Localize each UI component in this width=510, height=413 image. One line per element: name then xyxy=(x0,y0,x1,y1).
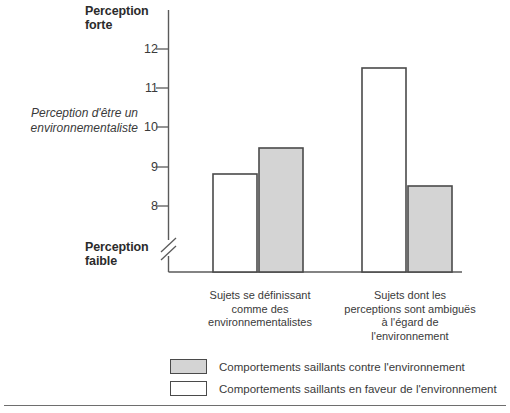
x-category-label-0-line2: comme des xyxy=(232,303,289,315)
bottom-divider xyxy=(4,405,506,406)
x-category-label-0: Sujets se définissant comme des environn… xyxy=(176,289,344,330)
bar-group1-against xyxy=(259,148,303,272)
x-category-label-0-line3: environnementalistes xyxy=(208,316,312,328)
legend-swatch-white xyxy=(170,381,207,396)
x-category-label-1: Sujets dont les perceptions sont ambiguë… xyxy=(330,289,490,343)
legend-swatch-gray xyxy=(170,359,207,374)
bar-group2-against xyxy=(408,186,452,272)
legend-item-favour: Comportements saillants en faveur de l'e… xyxy=(170,379,497,398)
legend-label-favour: Comportements saillants en faveur de l'e… xyxy=(219,383,497,395)
legend-item-against: Comportements saillants contre l'environ… xyxy=(170,357,497,376)
chart-legend: Comportements saillants contre l'environ… xyxy=(170,357,497,401)
x-category-label-1-line1: Sujets dont les xyxy=(374,289,446,301)
chart-figure: Perception forte Perception faible Perce… xyxy=(0,0,510,413)
bar-group2-favour xyxy=(362,68,406,272)
x-category-label-0-line1: Sujets se définissant xyxy=(210,289,311,301)
x-category-label-1-line3: à l'égard de xyxy=(381,316,438,328)
legend-label-against: Comportements saillants contre l'environ… xyxy=(219,361,465,373)
x-category-label-1-line2: perceptions sont ambiguës xyxy=(344,303,475,315)
plot-area xyxy=(0,0,510,413)
bar-group1-favour xyxy=(213,174,257,272)
x-category-label-1-line4: l'environnement xyxy=(371,330,448,342)
y-axis-break-slash-upper xyxy=(161,238,176,252)
